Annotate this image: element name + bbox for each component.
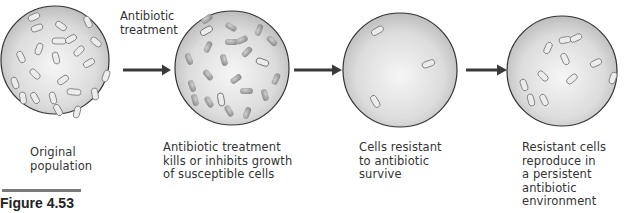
treatment-label-line-2: treatment	[120, 24, 178, 38]
treatment-dish	[175, 11, 289, 125]
arrow-3	[466, 65, 507, 76]
caption-line: to antibiotic	[359, 155, 442, 169]
figure-rule	[2, 189, 81, 192]
caption-line: antibiotic	[522, 182, 606, 196]
caption-reproduce: Resistant cells reproduce in a persisten…	[522, 141, 606, 209]
survivors-dish	[343, 13, 457, 127]
caption-line: Cells resistant	[359, 141, 442, 155]
caption-survive: Cells resistant to antibiotic survive	[359, 141, 442, 182]
caption-line: survive	[359, 168, 442, 182]
caption-line: of susceptible cells	[163, 168, 292, 182]
caption-line: reproduce in	[522, 155, 606, 169]
figure-label: Figure 4.53	[0, 195, 74, 211]
caption-treatment: Antibiotic treatment kills or inhibits g…	[163, 141, 292, 182]
caption-line: a persistent	[522, 168, 606, 182]
caption-line: Antibiotic treatment	[163, 141, 292, 155]
original-population-dish	[1, 6, 111, 119]
resistant-population-dish	[507, 16, 618, 126]
caption-line: kills or inhibits growth	[163, 155, 292, 169]
treatment-label: Antibiotic treatment	[120, 10, 178, 37]
caption-line: environment	[522, 195, 606, 209]
caption-original: Original population	[30, 146, 92, 173]
arrow-2	[294, 65, 342, 76]
arrow-1	[123, 65, 171, 76]
caption-line: Resistant cells	[522, 141, 606, 155]
caption-line: population	[30, 160, 92, 174]
caption-line: Original	[30, 146, 92, 160]
treatment-label-line-1: Antibiotic	[120, 10, 178, 24]
